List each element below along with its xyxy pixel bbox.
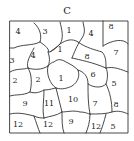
- region-label: 3: [9, 56, 14, 65]
- region-label: 7: [92, 99, 97, 108]
- region-map-figure: C: [0, 0, 134, 141]
- region-label: 12: [91, 122, 101, 131]
- region-label: 4: [30, 51, 35, 60]
- region-label: 3: [42, 27, 47, 36]
- region-label: 7: [113, 48, 118, 57]
- region-label: 12: [43, 120, 53, 129]
- region-label: 12: [13, 120, 23, 129]
- region-label: 9: [22, 99, 27, 108]
- region-label: 6: [90, 70, 95, 79]
- region-label: 8: [84, 52, 89, 61]
- region-label: 5: [110, 122, 115, 131]
- region-label: 8: [108, 22, 113, 31]
- region-label: 9: [68, 117, 73, 126]
- region-label: 2: [35, 75, 40, 84]
- region-label: 1: [57, 45, 62, 54]
- region-label: 4: [88, 29, 93, 38]
- region-label: 5: [111, 79, 116, 88]
- region-label: 1: [58, 74, 63, 83]
- region-label: 4: [15, 27, 20, 36]
- region-label: 8: [113, 100, 118, 109]
- region-label: 10: [68, 95, 78, 104]
- region-map: 4 3 1 4 8 3 4 1 8 7 2 2 1 6 5 9 11 10 7 …: [0, 0, 134, 141]
- region-label: 1: [66, 26, 71, 35]
- region-label: 2: [12, 76, 17, 85]
- region-label: 11: [44, 99, 54, 108]
